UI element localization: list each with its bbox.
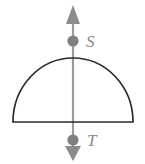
arrow-up-head-icon <box>66 5 80 24</box>
point-marker-T <box>67 134 78 145</box>
label-T: T <box>87 131 98 150</box>
label-S: S <box>86 32 95 51</box>
point-marker-S <box>67 35 78 46</box>
figure-container: S T <box>0 0 145 164</box>
diagram-svg: S T <box>0 0 145 164</box>
arrow-down-head-icon <box>65 146 81 161</box>
